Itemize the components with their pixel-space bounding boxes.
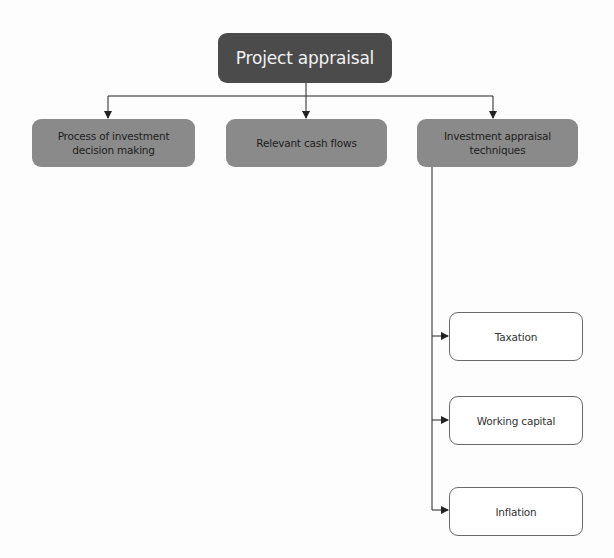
- node-taxation: Taxation: [449, 312, 583, 361]
- node-working-capital: Working capital: [449, 396, 583, 445]
- node-process-of-investment-decision-making: Process of investment decision making: [32, 119, 195, 167]
- node-label: Inflation: [495, 506, 536, 518]
- node-label: Project appraisal: [236, 48, 374, 68]
- node-label: Investment appraisal techniques: [427, 129, 568, 157]
- node-label: Process of investment decision making: [42, 129, 185, 157]
- node-inflation: Inflation: [449, 487, 583, 536]
- node-label: Working capital: [477, 415, 555, 427]
- connector-lines: [0, 0, 614, 558]
- node-investment-appraisal-techniques: Investment appraisal techniques: [417, 119, 578, 167]
- node-project-appraisal: Project appraisal: [218, 33, 392, 83]
- node-relevant-cash-flows: Relevant cash flows: [226, 119, 387, 167]
- node-label: Taxation: [495, 331, 537, 343]
- node-label: Relevant cash flows: [256, 136, 356, 150]
- diagram-canvas: Project appraisal Process of investment …: [0, 0, 614, 558]
